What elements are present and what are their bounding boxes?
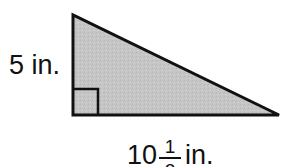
base-label: 10 1 2 in. xyxy=(127,134,214,167)
height-label: 5 in. xyxy=(9,52,60,79)
fraction-numerator: 1 xyxy=(162,137,179,156)
base-whole-number: 10 xyxy=(127,142,157,167)
base-fraction: 1 2 xyxy=(159,137,181,167)
triangle-shape xyxy=(73,15,279,115)
fraction-bar xyxy=(159,157,181,159)
height-unit: in. xyxy=(32,50,61,80)
fraction-denominator: 2 xyxy=(162,161,179,167)
height-value: 5 xyxy=(9,50,24,80)
base-unit: in. xyxy=(185,142,214,167)
